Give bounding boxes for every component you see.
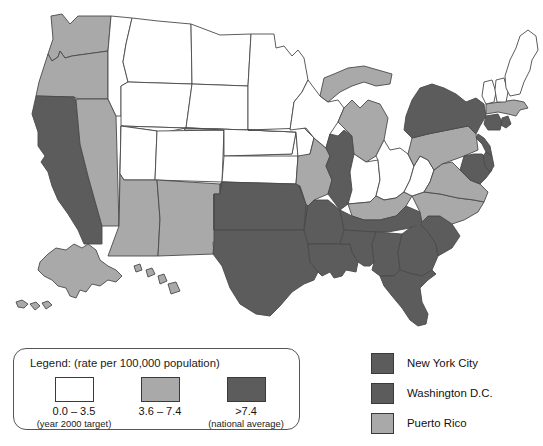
state-utah-body bbox=[120, 126, 157, 180]
state-vermont bbox=[482, 80, 496, 104]
city-swatch-puerto-rico bbox=[371, 413, 394, 434]
legend-range-mid: 3.6 – 7.4 bbox=[114, 405, 206, 418]
state-newjersey bbox=[476, 134, 492, 156]
state-northdakota bbox=[191, 24, 251, 86]
state-oregon bbox=[36, 51, 108, 99]
city-label-dc: Washington D.C. bbox=[407, 387, 493, 399]
state-kansas bbox=[222, 156, 298, 184]
state-rhodeisland bbox=[501, 116, 511, 128]
city-legend: New York City Washington D.C. Puerto Ric… bbox=[371, 348, 536, 438]
state-southdakota bbox=[186, 84, 248, 130]
state-florida bbox=[380, 270, 436, 326]
legend-note-high: (national average) bbox=[200, 418, 292, 430]
state-alaska-aleutians bbox=[16, 300, 52, 310]
city-swatch-nyc bbox=[371, 353, 394, 374]
legend-box: Legend: (rate per 100,000 population) 0.… bbox=[13, 348, 300, 430]
state-wyoming bbox=[121, 82, 192, 128]
state-maine bbox=[505, 30, 538, 96]
legend-range-high: >7.4 bbox=[200, 405, 292, 418]
legend-swatch-mid bbox=[141, 377, 180, 402]
city-swatch-dc bbox=[371, 383, 394, 404]
us-states-map bbox=[8, 4, 540, 334]
city-legend-row-nyc: New York City bbox=[371, 348, 536, 378]
state-colorado bbox=[155, 130, 224, 182]
legend-class-low: 0.0 – 3.5 (year 2000 target) bbox=[28, 377, 120, 430]
state-michigan-upper bbox=[320, 66, 392, 102]
city-legend-row-puerto-rico: Puerto Rico bbox=[371, 408, 536, 438]
choropleth-map-figure: Legend: (rate per 100,000 population) 0.… bbox=[0, 0, 543, 446]
legend-class-high: >7.4 (national average) bbox=[200, 377, 292, 430]
legend-range-low: 0.0 – 3.5 bbox=[28, 405, 120, 418]
state-newmexico bbox=[157, 180, 220, 256]
city-label-puerto-rico: Puerto Rico bbox=[407, 417, 467, 429]
city-legend-row-dc: Washington D.C. bbox=[371, 378, 536, 408]
state-alabama bbox=[372, 232, 402, 276]
state-newyork bbox=[404, 84, 486, 138]
legend-class-mid: 3.6 – 7.4 bbox=[114, 377, 206, 418]
state-connecticut bbox=[484, 114, 502, 130]
legend-swatch-high bbox=[227, 377, 266, 402]
city-label-nyc: New York City bbox=[407, 357, 478, 369]
legend-title: Legend: (rate per 100,000 population) bbox=[30, 357, 220, 369]
legend-swatch-low bbox=[55, 377, 94, 402]
state-oklahoma-body bbox=[214, 182, 306, 230]
state-montana bbox=[123, 18, 192, 84]
state-hawaii bbox=[134, 264, 180, 294]
legend-note-low: (year 2000 target) bbox=[28, 418, 120, 430]
